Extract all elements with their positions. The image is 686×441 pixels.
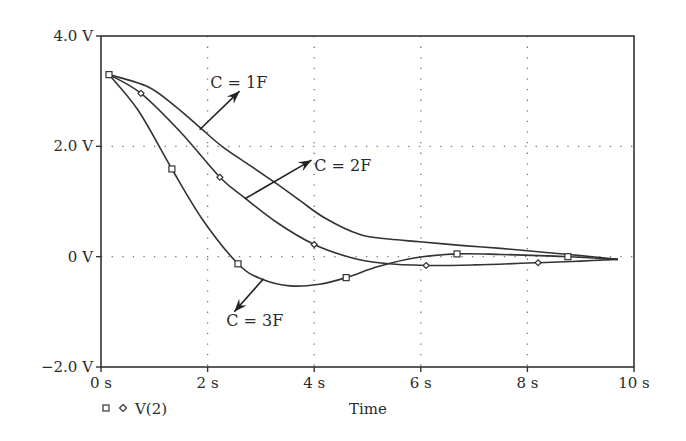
chart: 0 s2 s4 s6 s8 s10 s4.0 V2.0 V0 V−2.0 V C… (0, 0, 686, 441)
square-marker-icon (454, 251, 460, 257)
y-tick-label: 0 V (68, 248, 94, 266)
x-tick-label: 4 s (303, 374, 325, 392)
plot-frame (101, 36, 634, 367)
x-axis-title: Time (349, 400, 387, 418)
square-marker-icon (565, 254, 571, 260)
square-marker-icon (106, 72, 112, 78)
arrowhead-icon (298, 160, 312, 171)
x-tick-label: 0 s (90, 374, 112, 392)
x-tick-label: 6 s (410, 374, 432, 392)
diamond-marker-icon (535, 260, 541, 266)
y-tick-label: 2.0 V (54, 137, 95, 155)
data-series (106, 72, 618, 287)
diamond-marker-icon (423, 262, 429, 268)
annotation-label: C = 3F (226, 311, 283, 330)
square-marker-icon (169, 166, 175, 172)
diamond-marker-icon (311, 242, 317, 248)
x-tick-label: 2 s (197, 374, 219, 392)
square-marker-icon (103, 405, 109, 411)
y-tick-label: 4.0 V (54, 27, 95, 45)
curve-annotations: C = 1FC = 2FC = 3F (200, 73, 372, 329)
series-curve-c3f (109, 75, 618, 287)
square-marker-icon (235, 261, 241, 267)
square-marker-icon (343, 275, 349, 281)
annotation-label: C = 1F (210, 73, 267, 92)
y-tick-label: −2.0 V (41, 358, 94, 376)
annotation-label: C = 2F (314, 156, 371, 175)
legend: V(2) (103, 400, 167, 418)
voltage-time-plot: 0 s2 s4 s6 s8 s10 s4.0 V2.0 V0 V−2.0 V C… (0, 0, 686, 441)
grid-lines (101, 36, 634, 367)
annotation-arrow (245, 160, 312, 199)
x-tick-label: 8 s (516, 374, 538, 392)
x-tick-label: 10 s (618, 374, 650, 392)
legend-label: V(2) (134, 400, 167, 418)
diamond-marker-icon (120, 405, 127, 412)
